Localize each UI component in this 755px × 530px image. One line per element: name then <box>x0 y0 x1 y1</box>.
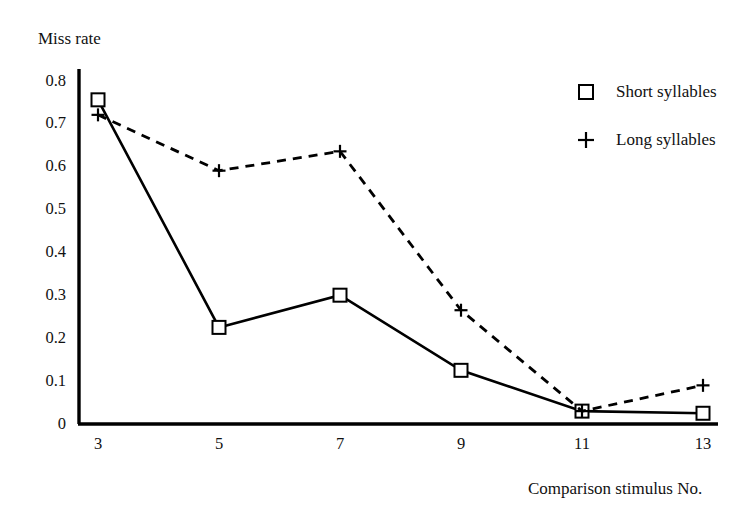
data-point-marker-square <box>455 364 468 377</box>
x-axis-title: Comparison stimulus No. <box>528 480 702 497</box>
data-point-marker-square <box>92 93 105 106</box>
y-tick-label: 0.7 <box>24 115 66 132</box>
y-tick-label: 0.6 <box>24 158 66 175</box>
y-tick-label: 0.4 <box>24 244 66 261</box>
y-tick-label: 0.2 <box>24 330 66 347</box>
y-tick-label: 0.8 <box>24 73 66 90</box>
x-tick-label: 11 <box>562 436 602 453</box>
legend-item-label: Long syllables <box>616 131 716 148</box>
x-tick-label: 13 <box>683 436 723 453</box>
data-point-marker-square <box>213 321 226 334</box>
y-tick-label: 0.5 <box>24 201 66 218</box>
x-tick-label: 3 <box>78 436 118 453</box>
x-tick-label: 9 <box>441 436 481 453</box>
data-point-marker-plus <box>697 379 710 392</box>
y-axis-title: Miss rate <box>38 30 101 47</box>
y-tick-label: 0 <box>24 416 66 433</box>
data-point-marker-square <box>697 407 710 420</box>
data-point-marker-plus <box>213 164 226 177</box>
x-tick-label: 5 <box>199 436 239 453</box>
series-line <box>98 115 703 411</box>
legend-item-label: Short syllables <box>616 83 717 100</box>
y-tick-label: 0.3 <box>24 287 66 304</box>
x-tick-label: 7 <box>320 436 360 453</box>
data-point-marker-square <box>334 289 347 302</box>
y-tick-label: 0.1 <box>24 373 66 390</box>
chart-figure: Miss rate Comparison stimulus No. 00.10.… <box>0 0 755 530</box>
chart-axes <box>78 69 718 424</box>
series-line <box>98 100 703 413</box>
